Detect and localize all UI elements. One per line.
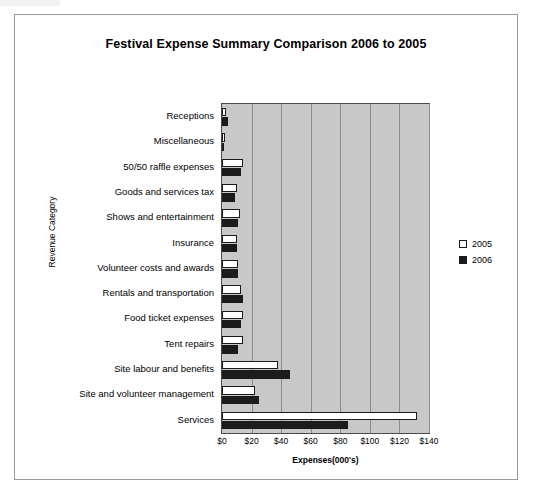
scan-artifact bbox=[0, 0, 60, 6]
legend-label-2005: 2005 bbox=[472, 240, 492, 249]
bar-2006 bbox=[222, 345, 238, 353]
bar-2005 bbox=[222, 260, 238, 268]
category-label: Services bbox=[178, 407, 214, 432]
chart-legend: 2005 2006 bbox=[459, 237, 507, 269]
category-label: Food ticket expenses bbox=[124, 305, 214, 330]
bar-2006 bbox=[222, 244, 237, 252]
bar-group bbox=[222, 104, 429, 129]
bar-group bbox=[222, 129, 429, 154]
bar-group bbox=[222, 332, 429, 357]
x-tick-label: $20 bbox=[244, 436, 258, 446]
category-label: 50/50 raffle expenses bbox=[123, 154, 214, 179]
bar-2006 bbox=[222, 295, 243, 303]
bar-group bbox=[222, 205, 429, 230]
legend-swatch-2005 bbox=[459, 240, 467, 248]
bar-2006 bbox=[222, 193, 235, 201]
category-label: Miscellaneous bbox=[154, 128, 214, 153]
x-tick-label: $40 bbox=[274, 436, 288, 446]
category-label: Site and volunteer management bbox=[79, 381, 214, 406]
bar-2005 bbox=[222, 209, 240, 217]
chart-title: Festival Expense Summary Comparison 2006… bbox=[15, 37, 517, 51]
bar-group bbox=[222, 408, 429, 433]
bar-group bbox=[222, 281, 429, 306]
bar-2005 bbox=[222, 336, 243, 344]
bar-2005 bbox=[222, 311, 243, 319]
bar-2006 bbox=[222, 320, 241, 328]
screenshot-page: Festival Expense Summary Comparison 2006… bbox=[0, 0, 533, 501]
category-label: Site labour and benefits bbox=[114, 356, 214, 381]
legend-item-2005: 2005 bbox=[459, 237, 507, 251]
gridline bbox=[429, 104, 430, 433]
legend-label-2006: 2006 bbox=[472, 256, 492, 265]
bar-group bbox=[222, 306, 429, 331]
bar-2006 bbox=[222, 370, 290, 378]
legend-swatch-2006 bbox=[459, 256, 467, 264]
x-tick-label: $80 bbox=[333, 436, 347, 446]
legend-item-2006: 2006 bbox=[459, 253, 507, 267]
bar-group bbox=[222, 357, 429, 382]
bar-group bbox=[222, 155, 429, 180]
category-label: Goods and services tax bbox=[115, 179, 214, 204]
bar-2005 bbox=[222, 361, 278, 369]
category-label: Insurance bbox=[172, 230, 214, 255]
bar-2006 bbox=[222, 421, 348, 429]
category-label: Volunteer costs and awards bbox=[97, 255, 214, 280]
bar-2005 bbox=[222, 159, 243, 167]
bar-group bbox=[222, 231, 429, 256]
bar-2006 bbox=[222, 396, 259, 404]
x-tick-label: $60 bbox=[304, 436, 318, 446]
bar-2006 bbox=[222, 168, 241, 176]
category-label: Tent repairs bbox=[164, 331, 214, 356]
bar-2006 bbox=[222, 117, 228, 125]
bar-group bbox=[222, 180, 429, 205]
bar-2005 bbox=[222, 285, 241, 293]
x-axis-tick-labels: $0$20$40$60$80$100$120$140 bbox=[221, 436, 430, 452]
bar-group bbox=[222, 256, 429, 281]
bar-2006 bbox=[222, 143, 224, 151]
category-axis-labels: ReceptionsMiscellaneous50/50 raffle expe… bbox=[55, 103, 218, 434]
category-label: Rentals and transportation bbox=[103, 280, 214, 305]
bar-2005 bbox=[222, 184, 237, 192]
x-tick-label: $140 bbox=[420, 436, 439, 446]
category-label: Shows and entertainment bbox=[106, 204, 214, 229]
x-tick-label: $100 bbox=[360, 436, 379, 446]
x-axis-title: Expenses(000's) bbox=[221, 455, 430, 465]
bar-2005 bbox=[222, 386, 255, 394]
chart-figure: Festival Expense Summary Comparison 2006… bbox=[14, 14, 518, 480]
bar-2006 bbox=[222, 219, 238, 227]
bar-group bbox=[222, 382, 429, 407]
bar-2005 bbox=[222, 235, 237, 243]
plot-area bbox=[221, 103, 430, 434]
bar-2005 bbox=[222, 412, 417, 420]
x-tick-label: $120 bbox=[390, 436, 409, 446]
bar-2005 bbox=[222, 133, 225, 141]
x-tick-label: $0 bbox=[217, 436, 226, 446]
bar-2006 bbox=[222, 269, 238, 277]
category-label: Receptions bbox=[166, 103, 214, 128]
bar-2005 bbox=[222, 108, 226, 116]
